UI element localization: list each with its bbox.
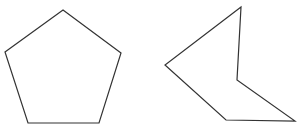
regular-pentagon-shape (5, 10, 121, 123)
concave-pentagon-shape (165, 7, 295, 121)
diagram-canvas (0, 0, 299, 132)
